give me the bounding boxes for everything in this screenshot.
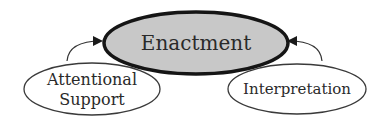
node-enactment-label: Enactment	[141, 31, 251, 55]
arrow-interpretation-to-enactment	[289, 41, 322, 61]
node-attentional-support: Attentional Support	[24, 63, 160, 115]
node-enactment: Enactment	[104, 12, 288, 74]
diagram-canvas: Attentional Support Interpretation Enact…	[0, 0, 381, 126]
node-interpretation: Interpretation	[228, 64, 366, 114]
node-attentional-label-line2: Support	[59, 90, 125, 109]
node-attentional-label-line1: Attentional	[46, 70, 137, 89]
arrow-attentional-to-enactment	[67, 41, 101, 61]
node-interpretation-label: Interpretation	[243, 80, 351, 98]
